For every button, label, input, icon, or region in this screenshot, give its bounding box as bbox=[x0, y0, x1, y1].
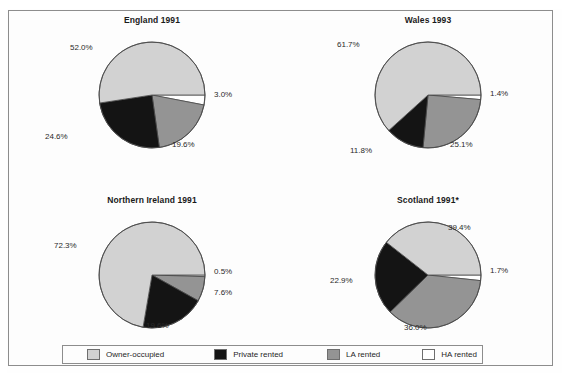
legend-label: HA rented bbox=[441, 350, 477, 359]
legend-label: Owner-occupied bbox=[106, 350, 164, 359]
pie-value-label-scotland-ha: 1.7% bbox=[490, 266, 508, 275]
pie-value-label-scotland-private: 22.9% bbox=[330, 276, 353, 285]
la-rented-swatch bbox=[327, 349, 340, 360]
chart-legend: Owner-occupiedPrivate rentedLA rentedHA … bbox=[62, 345, 483, 364]
pie-title-scotland: Scotland 1991* bbox=[288, 195, 562, 205]
legend-item-owner-occupied: Owner-occupied bbox=[87, 349, 164, 360]
legend-label: LA rented bbox=[346, 350, 380, 359]
legend-item-la-rented: LA rented bbox=[327, 349, 380, 360]
legend-item-private-rented: Private rented bbox=[214, 349, 283, 360]
pie-value-label-scotland-owner: 39.4% bbox=[448, 223, 471, 232]
legend-item-ha-rented: HA rented bbox=[422, 349, 477, 360]
pie-value-label-scotland-la: 36.0% bbox=[404, 323, 427, 332]
legend-label: Private rented bbox=[233, 350, 283, 359]
pie-panel-scotland: Scotland 1991*39.4%22.9%36.0%1.7% bbox=[0, 0, 562, 373]
pie-chart-figure: England 199152.0%24.6%19.6%3.0%Wales 199… bbox=[0, 0, 562, 373]
owner-occupied-swatch bbox=[87, 349, 100, 360]
ha-rented-swatch bbox=[422, 349, 435, 360]
private-rented-swatch bbox=[214, 349, 227, 360]
pie-scotland bbox=[372, 219, 484, 331]
